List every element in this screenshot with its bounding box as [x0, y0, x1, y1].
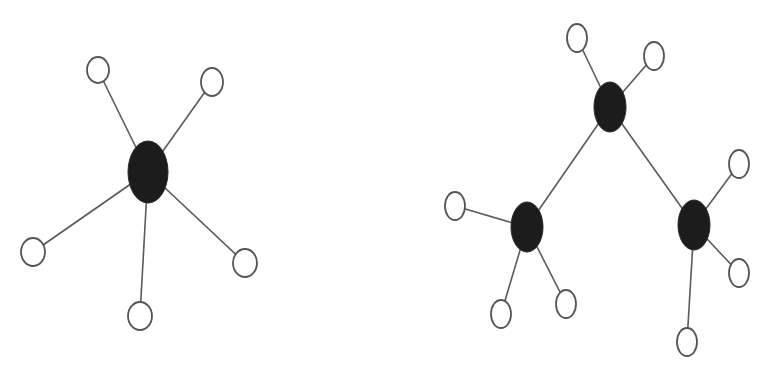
leaf-node	[21, 238, 45, 266]
leaf-node	[556, 290, 576, 318]
tree-edges	[455, 38, 739, 342]
edge-line	[610, 107, 694, 225]
leaf-node	[445, 192, 465, 220]
hub-node	[594, 82, 626, 132]
hub-node	[678, 200, 710, 250]
leaf-node	[644, 42, 664, 70]
leaf-node	[729, 150, 749, 178]
leaf-node	[567, 24, 587, 52]
diagram-canvas	[0, 0, 768, 375]
leaf-node	[729, 259, 749, 287]
star-nodes	[21, 57, 257, 330]
hub-node	[511, 202, 543, 252]
leaf-node	[87, 57, 109, 83]
tree-topology-graph	[445, 24, 749, 356]
leaf-node	[677, 328, 697, 356]
topology-diagram: Two network topology graphs: a star topo…	[0, 0, 768, 375]
star-topology-graph	[21, 57, 257, 330]
edge-line	[527, 107, 610, 227]
tree-nodes	[445, 24, 749, 356]
leaf-node	[491, 300, 511, 328]
leaf-node	[233, 249, 257, 277]
leaf-node	[201, 68, 223, 96]
leaf-node	[128, 302, 152, 330]
hub-node	[128, 141, 168, 203]
